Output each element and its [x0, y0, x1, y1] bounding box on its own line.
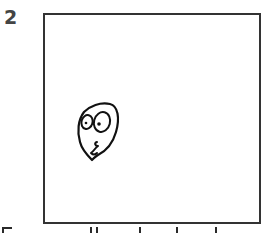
- clipped-glyph: [176, 227, 178, 233]
- clipped-glyph: [96, 227, 98, 233]
- clipped-glyph: [139, 227, 141, 233]
- clipped-glyph: [90, 227, 92, 233]
- panel-number: 2: [4, 8, 17, 27]
- clipped-glyph: [215, 227, 217, 233]
- clipped-caption: [0, 227, 264, 233]
- face-doodle-icon: [74, 100, 122, 164]
- clipped-glyph: [2, 227, 4, 233]
